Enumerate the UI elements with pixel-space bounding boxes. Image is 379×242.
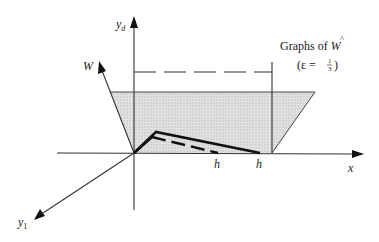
yd-axis-label: yd (115, 17, 126, 33)
y1-axis-label: y1 (17, 215, 27, 231)
x-axis-arrow-icon (352, 150, 364, 158)
caption-frac-den: 3 (328, 65, 332, 73)
caption-hat: ^ (340, 34, 345, 44)
yd-axis-arrow-icon (130, 16, 138, 28)
x-axis (57, 153, 355, 154)
h-label-inner: h (214, 157, 220, 171)
w-axis-arrow-icon (98, 61, 106, 74)
caption-line-1: Graphs of W (280, 39, 342, 53)
y1-axis (40, 153, 134, 215)
caption-frac-num: 1 (328, 57, 332, 65)
y1-axis-arrow-icon (34, 209, 45, 220)
w-axis-label: W (83, 59, 94, 73)
diagram-canvas: yd W x y1 h h Graphs of W ^ (ε = 1 3 ) (0, 0, 379, 242)
h-label-outer: h (256, 157, 262, 171)
caption-line-2-open: (ε = (297, 58, 316, 72)
caption-line-2-close: ) (334, 58, 338, 72)
x-axis-label: x (347, 161, 354, 175)
